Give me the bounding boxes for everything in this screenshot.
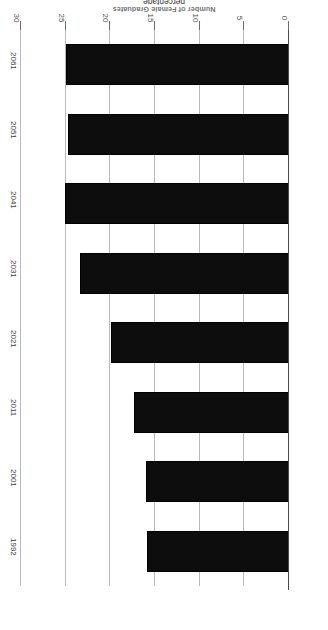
bar-2011[interactable] [134, 392, 289, 433]
bar-1992[interactable] [147, 531, 289, 572]
bar-row [21, 517, 289, 587]
axis-tick-label: 10 [191, 3, 200, 33]
bar-2061[interactable] [66, 44, 289, 85]
category-label-2031: 2031 [9, 260, 18, 300]
axis-tick-label: 15 [146, 3, 155, 33]
category-label-2001: 2001 [9, 469, 18, 509]
chart-page: Number of Female Graduates percentage 05… [0, 0, 328, 630]
axis-tick-label: 25 [57, 3, 66, 33]
bar-2041[interactable] [65, 183, 289, 224]
category-label-2011: 2011 [9, 399, 18, 439]
category-label-2061: 2061 [9, 52, 18, 92]
rotated-figure: Number of Female Graduates percentage 05… [0, 0, 328, 630]
category-label-2021: 2021 [9, 330, 18, 370]
bar-2031[interactable] [80, 253, 289, 294]
bar-2001[interactable] [146, 461, 289, 502]
value-axis-title: percentage [0, 0, 328, 7]
plot-area [21, 30, 289, 586]
bar-row [21, 100, 289, 170]
category-label-2051: 2051 [9, 121, 18, 161]
bar-row [21, 308, 289, 378]
category-label-2041: 2041 [9, 191, 18, 231]
bar-2051[interactable] [68, 114, 289, 155]
bar-row [21, 239, 289, 309]
axis-tick-label: 0 [280, 3, 289, 33]
axis-tick-label: 5 [235, 3, 244, 33]
bar-row [21, 169, 289, 239]
value-axis-line [288, 26, 289, 590]
bar-2021[interactable] [111, 322, 289, 363]
category-label-1992: 1992 [9, 538, 18, 578]
axis-tick-label: 30 [12, 3, 21, 33]
bar-row [21, 378, 289, 448]
bar-row [21, 30, 289, 100]
axis-tick-label: 20 [101, 3, 110, 33]
bar-row [21, 447, 289, 517]
